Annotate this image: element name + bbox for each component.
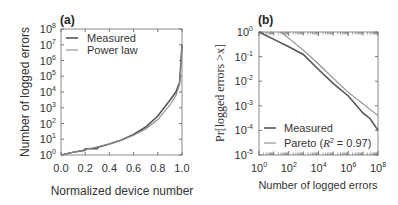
y-tick-label: 10-3: [235, 99, 254, 112]
panel-a-y-axis-title: Number of logged errors: [18, 27, 32, 157]
y-tick-label: 106: [40, 54, 56, 67]
y-tick-label: 102: [40, 117, 56, 130]
panel-b-label: (b): [258, 13, 273, 27]
panel-a: (a) 100101102103104105106107108 0.00.20.…: [18, 13, 193, 198]
legend-label-pareto: Pareto (R2 = 0.97): [284, 137, 371, 149]
panel-a-label: (a): [60, 13, 75, 27]
panel-b-legend: Measured Pareto (R2 = 0.97): [264, 122, 371, 149]
x-tick-label: 100: [251, 161, 267, 174]
y-tick-label: 10-2: [235, 74, 254, 87]
y-tick-label: 10-1: [235, 50, 254, 63]
panel-b: (b) 10010-110-210-310-410-5 100102104106…: [213, 13, 386, 191]
x-tick-label: 0.4: [102, 162, 117, 174]
y-tick-label: 105: [40, 69, 56, 82]
x-tick-label: 102: [281, 161, 297, 174]
y-tick-label: 100: [40, 148, 56, 161]
legend-label-power-law: Power law: [87, 44, 138, 56]
panel-b-x-axis-title: Number of logged errors: [258, 179, 378, 191]
y-tick-label: 103: [40, 101, 56, 114]
y-tick-label: 104: [40, 85, 56, 98]
panel-a-power-law-line: [61, 45, 182, 155]
panel-b-pareto-line: [281, 32, 378, 116]
x-tick-label: 0.8: [150, 162, 165, 174]
panel-b-x-axis: 100102104106108: [251, 32, 386, 174]
x-tick-label: 0.2: [78, 162, 93, 174]
x-tick-label: 108: [370, 161, 386, 174]
y-tick-label: 100: [237, 25, 253, 38]
legend-label-measured: Measured: [87, 32, 136, 44]
y-tick-label: 10-5: [235, 148, 254, 161]
x-tick-label: 0.6: [126, 162, 141, 174]
y-tick-label: 101: [40, 132, 56, 145]
x-tick-label: 104: [310, 161, 326, 174]
y-tick-label: 108: [40, 22, 56, 35]
panel-a-x-axis-title: Normalized device number: [51, 184, 194, 198]
panel-a-legend: Measured Power law: [66, 32, 138, 56]
y-tick-label: 10-4: [235, 123, 254, 136]
x-tick-label: 0.0: [53, 162, 68, 174]
legend-label-measured: Measured: [284, 122, 333, 134]
panel-b-y-axis-title: Pr[logged errors >x]: [213, 44, 227, 142]
figure: (a) 100101102103104105106107108 0.00.20.…: [0, 0, 398, 205]
panel-b-measured-line: [259, 32, 378, 130]
panel-a-measured-line: [61, 45, 182, 155]
x-tick-label: 106: [340, 161, 356, 174]
x-tick-label: 1.0: [174, 162, 189, 174]
y-tick-label: 107: [40, 38, 56, 51]
